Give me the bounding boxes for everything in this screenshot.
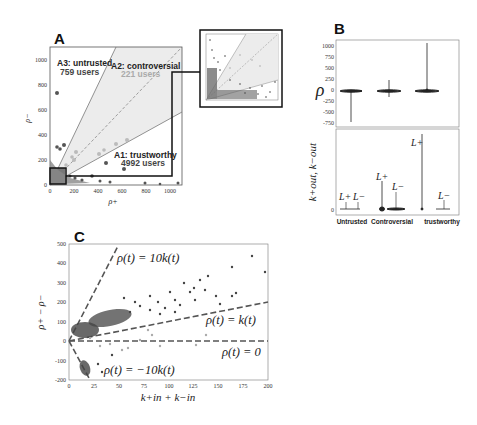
svg-text:0: 0 xyxy=(68,383,71,389)
svg-text:125: 125 xyxy=(189,383,198,389)
svg-text:100: 100 xyxy=(57,319,66,325)
svg-text:500: 500 xyxy=(325,65,334,71)
panel-c-controversial-points xyxy=(89,329,207,351)
panel-c-ylabel: ρ+ − ρ− xyxy=(35,295,46,331)
figure-canvas: A A3: untrusted 759 users A2: controvers xyxy=(0,0,477,425)
svg-text:0: 0 xyxy=(331,207,334,213)
panel-c-xlabel: k+in + k−in xyxy=(141,391,196,403)
svg-text:600: 600 xyxy=(118,188,127,194)
svg-text:500: 500 xyxy=(57,241,66,247)
svg-text:L+: L+ xyxy=(375,171,388,182)
region-a1-count: 4992 users xyxy=(121,158,165,168)
panel-a-label: A xyxy=(54,30,65,47)
svg-text:Controversial: Controversial xyxy=(371,218,413,225)
svg-text:150: 150 xyxy=(214,383,223,389)
svg-text:-250: -250 xyxy=(323,98,334,104)
panel-c-label: C xyxy=(74,228,85,245)
svg-text:75: 75 xyxy=(141,383,147,389)
svg-text:L−: L− xyxy=(352,191,365,202)
svg-text:200: 200 xyxy=(38,157,47,163)
svg-text:50: 50 xyxy=(116,383,122,389)
panel-c-xticks: 0 25 50 75 100 125 150 175 200 xyxy=(68,383,273,389)
svg-text:ρ(t) = 10k(t): ρ(t) = 10k(t) xyxy=(116,251,179,265)
svg-text:trustworthy: trustworthy xyxy=(424,218,460,226)
svg-text:0: 0 xyxy=(331,87,334,93)
panel-a-yticks: 0 200 400 600 800 1000 xyxy=(35,57,47,188)
svg-text:-100: -100 xyxy=(55,358,66,364)
svg-text:175: 175 xyxy=(239,383,248,389)
panel-a-ylabel: ρ− xyxy=(23,113,32,123)
panel-a: A A3: untrusted 759 users A2: controvers xyxy=(23,30,200,206)
svg-text:400: 400 xyxy=(94,188,103,194)
svg-text:-200: -200 xyxy=(55,377,66,383)
svg-text:200: 200 xyxy=(70,188,79,194)
panel-b-top-frame xyxy=(336,40,459,127)
svg-text:ρ(t) = 0: ρ(t) = 0 xyxy=(221,345,261,359)
svg-text:0: 0 xyxy=(63,338,66,344)
panel-b-top-ylabel: ρ xyxy=(315,80,325,100)
svg-text:200: 200 xyxy=(264,383,273,389)
svg-text:200: 200 xyxy=(57,299,66,305)
svg-text:-500: -500 xyxy=(323,109,334,115)
panel-b-label: B xyxy=(334,20,345,37)
svg-text:800: 800 xyxy=(142,188,151,194)
panel-b-categories: Untrusted Controversial trustworthy xyxy=(337,218,461,226)
panel-c: C 500 400 300 200 100 0 -100 -200 ρ+ − ρ… xyxy=(35,228,273,403)
region-a3-count: 759 users xyxy=(60,67,99,77)
svg-text:300: 300 xyxy=(57,280,66,286)
svg-text:ρ(t) = −10k(t): ρ(t) = −10k(t) xyxy=(103,363,175,377)
svg-text:250: 250 xyxy=(325,76,334,82)
panel-b-bottom-ylabel: k+out, k−out xyxy=(306,142,318,201)
svg-text:Untrusted: Untrusted xyxy=(337,218,368,225)
panel-a-inset xyxy=(200,30,282,107)
svg-text:100: 100 xyxy=(165,383,174,389)
panel-a-xticks: 0 200 400 600 800 1000 xyxy=(49,188,177,194)
svg-text:25: 25 xyxy=(91,383,97,389)
svg-text:600: 600 xyxy=(38,107,47,113)
panel-b: B 1000 750 500 250 0 -250 -500 -750 ρ k+… xyxy=(306,20,460,226)
svg-text:L−: L− xyxy=(437,190,450,201)
svg-text:750: 750 xyxy=(325,54,334,60)
svg-text:ρ(t) = k(t): ρ(t) = k(t) xyxy=(205,313,256,327)
svg-text:-750: -750 xyxy=(323,120,334,126)
svg-text:1000: 1000 xyxy=(35,57,47,63)
svg-text:800: 800 xyxy=(38,82,47,88)
svg-text:400: 400 xyxy=(57,260,66,266)
svg-text:0: 0 xyxy=(49,188,52,194)
region-a2-count: 221 users xyxy=(121,69,160,79)
svg-text:1000: 1000 xyxy=(164,188,176,194)
svg-text:L+: L+ xyxy=(338,191,351,202)
panel-b-bottom-yticks: 0 xyxy=(331,207,334,213)
svg-text:0: 0 xyxy=(44,182,47,188)
panel-b-annotations: L+ L− L+ L− L+ L− xyxy=(338,137,450,202)
svg-text:400: 400 xyxy=(38,132,47,138)
svg-text:L−: L− xyxy=(391,181,404,192)
panel-b-top-violins xyxy=(340,43,439,122)
panel-a-xlabel: ρ+ xyxy=(107,197,117,206)
svg-text:L+: L+ xyxy=(410,137,423,148)
svg-text:1000: 1000 xyxy=(322,43,334,49)
panel-c-yticks: 500 400 300 200 100 0 -100 -200 xyxy=(55,241,66,383)
panel-b-bottom-frame xyxy=(336,129,459,215)
